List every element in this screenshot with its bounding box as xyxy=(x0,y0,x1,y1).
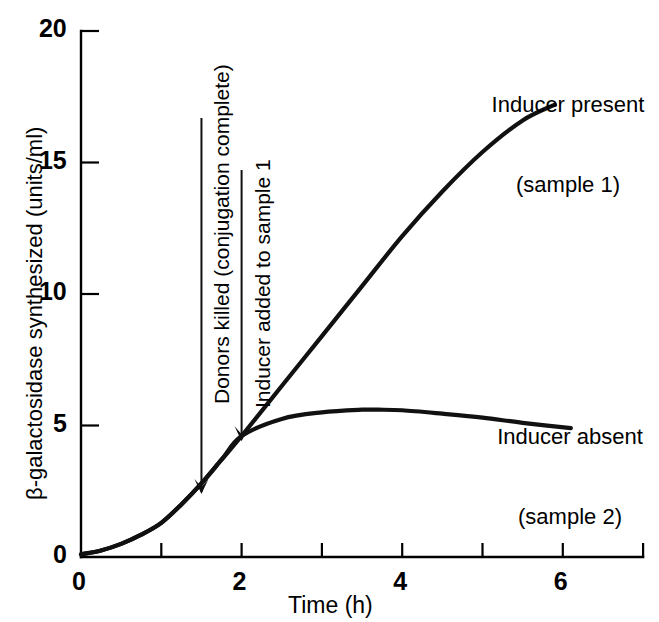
x-axis-title: Time (h) xyxy=(288,592,373,619)
series-label-sample-2-line1: Inducer absent xyxy=(482,424,658,451)
y-tick-label: 5 xyxy=(53,409,67,438)
y-tick-label: 15 xyxy=(39,146,66,175)
x-tick-label: 0 xyxy=(72,567,86,596)
x-tick-label: 2 xyxy=(233,567,247,596)
series-label-sample-1-line2: (sample 1) xyxy=(478,172,658,199)
series-label-sample-1: Inducer present (sample 1) xyxy=(478,38,658,253)
series-label-sample-2-line2: (sample 2) xyxy=(482,504,658,531)
series-label-sample-2: Inducer absent (sample 2) xyxy=(482,370,658,585)
annotation-donors-killed: Donors killed (conjugation complete) xyxy=(210,64,234,404)
y-axis-ticks xyxy=(81,31,99,426)
y-tick-label: 20 xyxy=(39,14,66,43)
y-tick-label: 0 xyxy=(53,540,67,569)
x-tick-label: 4 xyxy=(393,567,407,596)
y-axis-title: β-galactosidase synthesized (units/ml) xyxy=(22,127,48,500)
chart-figure: β-galactosidase synthesized (units/ml) T… xyxy=(0,0,659,622)
series-label-sample-1-line1: Inducer present xyxy=(478,92,658,119)
annotation-inducer-added: Inducer added to sample 1 xyxy=(251,159,275,408)
y-tick-label: 10 xyxy=(39,277,66,306)
